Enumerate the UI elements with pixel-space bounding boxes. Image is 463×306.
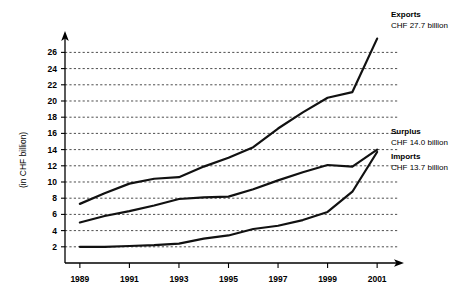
y-axis-tick-label: 18: [48, 112, 58, 122]
x-axis-tick-label: 2001: [368, 274, 387, 284]
y-axis-tick-label-group: 2468101214161820222426: [48, 47, 58, 251]
y-axis-tick-label: 12: [48, 161, 58, 171]
y-axis-tick-label: 16: [48, 128, 58, 138]
x-axis-tick-label: 1995: [219, 274, 238, 284]
annotation-imports-value: CHF 13.7 billion: [391, 163, 448, 172]
annotation-imports: Imports CHF 13.7 billion: [391, 152, 448, 172]
y-axis-tick-label: 20: [48, 96, 58, 106]
annotation-surplus-value: CHF 14.0 billion: [391, 138, 448, 147]
annotation-exports: Exports CHF 27.7 billion: [391, 10, 448, 30]
series-line-group: [80, 39, 377, 247]
x-axis-tick-mark-group: [80, 263, 377, 268]
y-axis-tick-label: 24: [48, 64, 58, 74]
x-axis-tick-label: 1997: [269, 274, 288, 284]
annotation-surplus-title: Surplus: [391, 127, 421, 136]
y-axis-tick-label: 10: [48, 177, 58, 187]
y-axis-tick-label: 2: [52, 242, 57, 252]
annotation-imports-title: Imports: [391, 152, 421, 161]
series-line-exports: [80, 39, 377, 204]
annotation-exports-title: Exports: [391, 10, 421, 19]
y-axis-tick-label: 8: [52, 193, 57, 203]
y-axis-tick-label: 6: [52, 209, 57, 219]
y-axis-tick-label: 26: [48, 47, 58, 57]
y-axis-tick-label: 4: [52, 226, 57, 236]
line-chart: 2468101214161820222426 19891991199319951…: [0, 0, 463, 306]
x-axis-tick-label: 1991: [120, 274, 139, 284]
x-axis-tick-label: 1999: [318, 274, 337, 284]
y-axis-title: (in CHF billion): [18, 132, 28, 188]
chart-canvas: 2468101214161820222426 19891991199319951…: [0, 0, 463, 306]
annotation-exports-value: CHF 27.7 billion: [391, 21, 448, 30]
y-axis-tick-label: 14: [48, 145, 58, 155]
annotation-surplus: Surplus CHF 14.0 billion: [391, 127, 448, 147]
x-axis-tick-label-group: 1989199119931995199719992001: [70, 274, 386, 284]
y-axis-tick-label: 22: [48, 80, 58, 90]
x-axis-tick-label: 1993: [169, 274, 188, 284]
gridline-group: [65, 52, 398, 246]
x-axis-tick-label: 1989: [70, 274, 89, 284]
